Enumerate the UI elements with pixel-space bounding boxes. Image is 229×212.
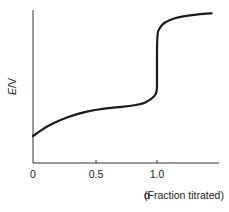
titration-curve bbox=[33, 13, 212, 136]
y-axis-unit: /V bbox=[6, 78, 18, 88]
y-axis-title: E/V bbox=[6, 78, 18, 95]
y-axis-symbol: E bbox=[6, 88, 18, 95]
titration-chart bbox=[0, 0, 229, 212]
x-axis-title-text: (Fraction titrated) bbox=[144, 189, 224, 201]
x-tick-label-0.5: 0.5 bbox=[89, 168, 104, 180]
x-tick-label-0: 0 bbox=[30, 168, 36, 180]
x-tick-label-1.0: 1.0 bbox=[150, 168, 165, 180]
